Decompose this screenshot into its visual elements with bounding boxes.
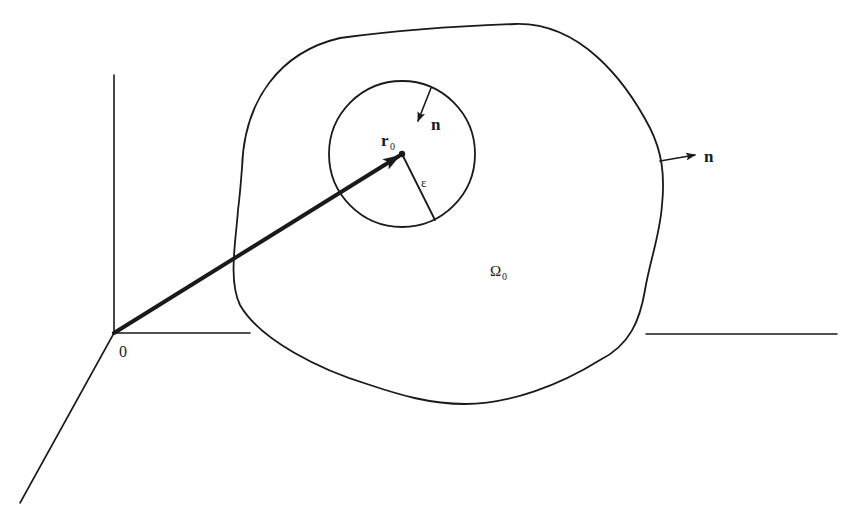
- position-vector-label: r: [381, 131, 389, 150]
- region-subscript: 0: [502, 271, 507, 282]
- x-axis: [20, 333, 114, 503]
- outer-normal-label: n: [704, 147, 714, 166]
- origin-label: 0: [119, 343, 127, 360]
- position-vector-subscript: 0: [390, 141, 395, 152]
- radius-label: ε: [421, 175, 427, 190]
- coordinate-axes: [20, 75, 837, 503]
- inner-normal-arrow: [418, 88, 431, 121]
- radius-line: [402, 154, 435, 220]
- outer-normal-arrow: [660, 155, 695, 161]
- diagram-canvas: 0 r 0 n ε n Ω 0: [0, 0, 852, 525]
- region-label: Ω: [490, 263, 501, 279]
- inner-normal-label: n: [431, 115, 441, 134]
- position-vector-arrow: [114, 156, 399, 333]
- region-boundary: [234, 24, 664, 404]
